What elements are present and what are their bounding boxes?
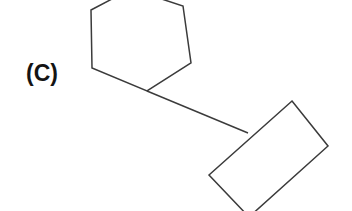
canvas-background	[0, 0, 352, 211]
panel-label: (C)	[26, 60, 58, 86]
figure-panel: (C)	[0, 0, 352, 211]
line-drawing-canvas	[0, 0, 352, 211]
